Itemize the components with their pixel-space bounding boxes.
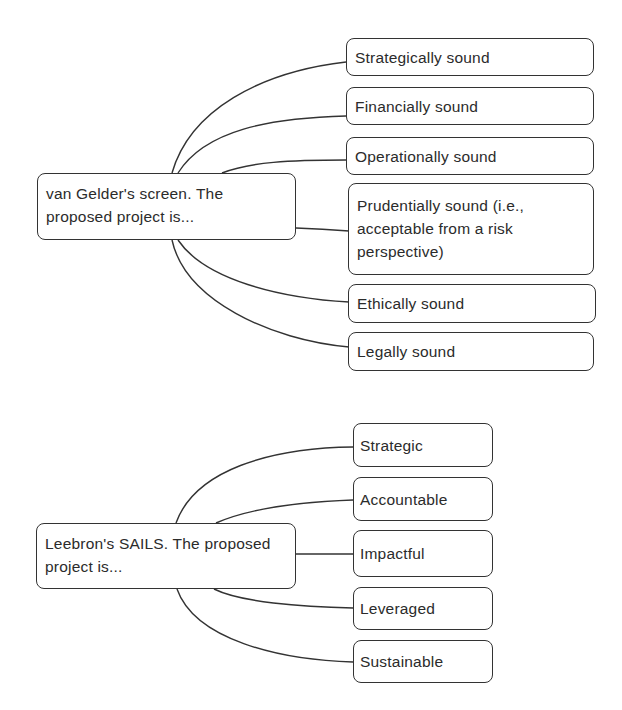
connector-prudentially (296, 228, 349, 231)
option-node-impactful: Impactful (353, 530, 493, 577)
connector-operationally (222, 160, 346, 173)
option-node-legally-sound: Legally sound (348, 332, 594, 371)
option-label: Accountable (360, 488, 448, 511)
option-label: Operationally sound (355, 145, 497, 168)
option-node-strategically-sound: Strategically sound (346, 38, 594, 76)
option-node-ethically-sound: Ethically sound (348, 284, 596, 323)
connector-financially (178, 116, 346, 173)
connector-ethically (178, 240, 349, 302)
option-label: Financially sound (355, 95, 478, 118)
option-label: Leveraged (360, 597, 435, 620)
option-label: Legally sound (357, 340, 455, 363)
root-node-leebron-sails: Leebron's SAILS. The proposed project is… (36, 523, 296, 589)
option-label: Sustainable (360, 650, 443, 673)
option-label: Strategic (360, 434, 423, 457)
option-node-leveraged: Leveraged (353, 587, 493, 630)
option-node-strategic: Strategic (353, 423, 493, 467)
root-node-label: van Gelder's screen. The proposed projec… (46, 185, 223, 225)
connector-sustainable (177, 589, 353, 662)
option-label: Impactful (360, 542, 425, 565)
connector-strategic (176, 447, 353, 523)
option-label: Prudentially sound (i.e., acceptable fro… (357, 197, 524, 260)
connector-legally (172, 240, 349, 347)
option-node-financially-sound: Financially sound (346, 87, 594, 125)
option-node-operationally-sound: Operationally sound (346, 137, 594, 175)
root-node-van-gelder: van Gelder's screen. The proposed projec… (37, 173, 296, 240)
connector-accountable (216, 500, 353, 523)
option-label: Ethically sound (357, 292, 464, 315)
option-node-accountable: Accountable (353, 477, 493, 521)
option-node-sustainable: Sustainable (353, 640, 493, 683)
option-node-prudentially-sound: Prudentially sound (i.e., acceptable fro… (348, 183, 594, 275)
connector-leveraged (214, 589, 353, 608)
root-node-label: Leebron's SAILS. The proposed project is… (45, 535, 271, 575)
option-label: Strategically sound (355, 46, 490, 69)
